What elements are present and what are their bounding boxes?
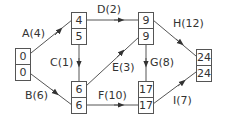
edge-label-e: E(3): [112, 62, 135, 74]
activity-network-diagram: 0 0 4 5 6 6 9 9 17 17 24 24 A(4) B(6) C(…: [0, 0, 226, 123]
node-early-time: 17: [139, 82, 153, 98]
node-early-time: 24: [197, 50, 211, 66]
node-3: 6 6: [71, 81, 87, 114]
edge-label-h: H(12): [173, 18, 204, 30]
node-late-time: 5: [72, 29, 86, 44]
node-early-time: 0: [16, 49, 30, 65]
edge-label-b: B(6): [25, 90, 48, 102]
node-end: 24 24: [196, 49, 212, 82]
node-late-time: 24: [197, 66, 211, 81]
node-4: 9 9: [138, 12, 154, 45]
edge-label-g: G(8): [150, 57, 174, 69]
node-2: 4 5: [71, 12, 87, 45]
node-late-time: 0: [16, 65, 30, 80]
node-early-time: 6: [72, 82, 86, 98]
edge-label-a: A(4): [22, 28, 45, 40]
node-early-time: 4: [72, 13, 86, 29]
node-late-time: 6: [72, 98, 86, 113]
node-late-time: 17: [139, 98, 153, 113]
edge-label-c: C(1): [50, 57, 73, 69]
node-5: 17 17: [138, 81, 154, 114]
edge-label-d: D(2): [97, 4, 121, 16]
edge-label-f: F(10): [98, 90, 127, 102]
node-late-time: 9: [139, 29, 153, 44]
node-start: 0 0: [15, 48, 31, 81]
edge-label-i: I(7): [173, 95, 192, 107]
node-early-time: 9: [139, 13, 153, 29]
